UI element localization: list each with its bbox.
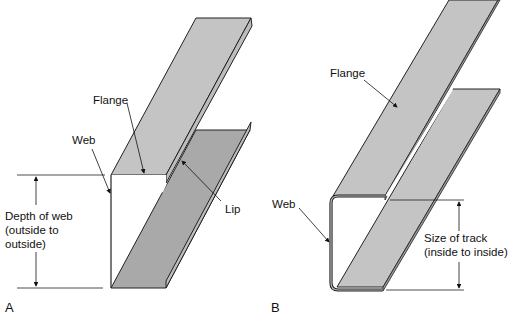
figure-letter-a: A xyxy=(5,300,14,315)
lip-label-a: Lip xyxy=(225,202,240,216)
size-label-line1: Size of track xyxy=(424,231,487,245)
stud-a xyxy=(17,18,252,288)
depth-label-line3: outside) xyxy=(5,237,46,251)
flange-label-a: Flange xyxy=(93,93,128,107)
depth-label-line2: (outside to xyxy=(5,223,59,237)
diagram-canvas xyxy=(0,0,509,318)
figure-letter-b: B xyxy=(271,300,280,315)
web-label-a: Web xyxy=(72,133,95,147)
flange-label-b: Flange xyxy=(330,66,365,80)
web-label-b: Web xyxy=(272,197,295,211)
size-label-line2: (inside to inside) xyxy=(424,245,508,259)
depth-label-line1: Depth of web xyxy=(5,209,73,223)
